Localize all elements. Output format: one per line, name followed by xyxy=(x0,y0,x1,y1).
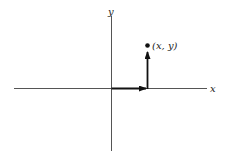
coordinate-diagram: (x, y) y x xyxy=(0,0,226,159)
point-marker xyxy=(145,43,150,48)
y-axis-label: y xyxy=(107,6,114,17)
x-axis-label: x xyxy=(210,83,216,94)
point-label: (x, y) xyxy=(152,40,178,51)
